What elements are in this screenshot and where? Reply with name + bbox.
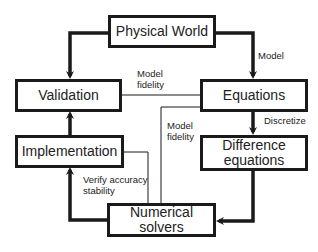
label-discretize: Discretize [264, 115, 306, 126]
label-verify: Verify accuracy stability [83, 174, 147, 196]
label-model: Model [258, 50, 284, 61]
label-model-fidelity-top-2: fidelity [137, 79, 164, 90]
node-numerical-solvers: Numerical solvers [107, 203, 216, 237]
node-difference-equations-label-2: equations [224, 153, 285, 168]
label-model-fidelity-mid: Model fidelity [167, 120, 194, 142]
edge-physical-to-equations [216, 33, 253, 76]
node-implementation: Implementation [15, 135, 124, 168]
label-model-fidelity-mid-2: fidelity [167, 131, 194, 142]
node-implementation-label: Implementation [22, 144, 118, 159]
edge-physical-to-validation [70, 33, 108, 76]
node-validation: Validation [15, 79, 122, 112]
node-validation-label: Validation [38, 88, 98, 103]
node-difference-equations: Difference equations [200, 135, 308, 171]
label-verify-2: stability [83, 185, 147, 196]
node-difference-equations-label-1: Difference [222, 138, 286, 153]
node-equations-label: Equations [223, 88, 285, 103]
node-physical-world-label: Physical World [116, 24, 208, 39]
label-verify-1: Verify accuracy [83, 174, 147, 185]
node-numerical-solvers-label: Numerical solvers [110, 205, 213, 235]
node-physical-world: Physical World [108, 15, 216, 48]
edge-difference-to-solvers [219, 170, 253, 221]
label-model-fidelity-mid-1: Model [167, 120, 194, 131]
node-equations: Equations [200, 79, 308, 112]
label-model-fidelity-top-1: Model [137, 68, 164, 79]
label-model-fidelity-top: Model fidelity [137, 68, 164, 90]
